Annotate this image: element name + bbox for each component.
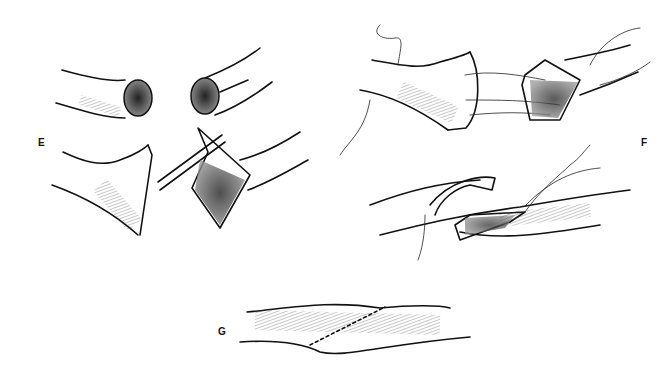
surgical-illustration <box>0 0 664 377</box>
panel-e-drawing <box>52 48 308 235</box>
panel-f-drawing <box>340 25 650 260</box>
panel-g-drawing <box>240 305 470 354</box>
